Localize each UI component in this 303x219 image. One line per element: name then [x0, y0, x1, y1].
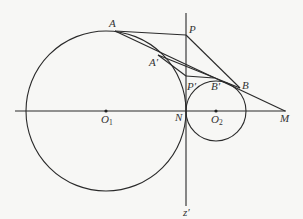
label-b-prime: B′ — [211, 80, 221, 92]
geometry-diagram: A P A′ P′ B′ B N O1 O2 M z′ — [0, 0, 303, 219]
line-a-m — [115, 31, 285, 111]
label-z-prime: z′ — [182, 206, 190, 218]
label-p: P — [188, 23, 196, 35]
label-m: M — [279, 112, 290, 124]
label-o2: O2 — [211, 113, 223, 127]
line-a-prime-m — [158, 55, 240, 88]
label-a-prime: A′ — [148, 56, 159, 68]
label-b: B — [242, 79, 249, 91]
label-o1: O1 — [101, 113, 113, 127]
label-a: A — [108, 17, 116, 29]
label-p-prime: P′ — [186, 80, 197, 92]
label-n: N — [174, 111, 183, 123]
